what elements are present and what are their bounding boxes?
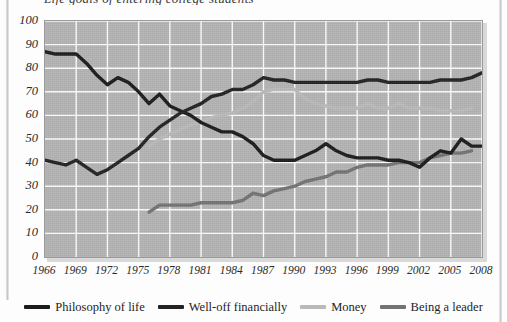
legend-label: Well-off financially xyxy=(189,300,287,315)
legend-swatch-icon xyxy=(300,305,326,309)
plot-area xyxy=(44,20,483,258)
x-axis-tick-1981: 1981 xyxy=(189,264,212,276)
legend-swatch-icon xyxy=(380,305,406,309)
x-axis-tick-1996: 1996 xyxy=(345,264,368,276)
x-axis-tick-1969: 1969 xyxy=(64,264,87,276)
legend-label: Money xyxy=(331,300,366,315)
y-axis-tick-100: 100 xyxy=(19,13,38,28)
x-axis-tick-2002: 2002 xyxy=(407,264,430,276)
x-axis-tick-1987: 1987 xyxy=(251,264,274,276)
y-axis-tick-0: 0 xyxy=(32,249,38,264)
y-axis-tick-80: 80 xyxy=(26,60,39,75)
legend-item-0[interactable]: Philosophy of life xyxy=(24,300,145,315)
y-axis-tick-90: 90 xyxy=(26,36,39,51)
y-axis-tick-20: 20 xyxy=(26,201,39,216)
chart-svg xyxy=(45,21,482,257)
x-axis-tick-2008: 2008 xyxy=(470,264,493,276)
x-axis-tick-2005: 2005 xyxy=(438,264,461,276)
legend-label: Philosophy of life xyxy=(55,300,145,315)
y-axis-tick-50: 50 xyxy=(26,131,39,146)
x-axis-tick-1978: 1978 xyxy=(157,264,180,276)
x-axis-labels: 1966196919721975197819811984198719901993… xyxy=(0,264,507,282)
y-axis-tick-70: 70 xyxy=(26,83,39,98)
chart-legend: Philosophy of lifeWell-off financiallyMo… xyxy=(0,296,507,318)
y-axis-tick-10: 10 xyxy=(26,225,39,240)
legend-item-2[interactable]: Money xyxy=(300,300,366,315)
x-axis-tick-1975: 1975 xyxy=(126,264,149,276)
y-axis-labels: 0102030405060708090100 xyxy=(0,0,44,280)
x-axis-tick-1993: 1993 xyxy=(313,264,336,276)
x-axis-tick-1972: 1972 xyxy=(95,264,118,276)
x-axis-tick-1999: 1999 xyxy=(376,264,399,276)
chart-title: Life goals of entering college students xyxy=(44,0,444,5)
legend-swatch-icon xyxy=(24,305,50,309)
y-axis-tick-40: 40 xyxy=(26,154,39,169)
legend-swatch-icon xyxy=(158,305,184,309)
legend-label: Being a leader xyxy=(411,300,483,315)
legend-item-3[interactable]: Being a leader xyxy=(380,300,483,315)
chart-page: Life goals of entering college students … xyxy=(0,0,507,322)
y-axis-tick-60: 60 xyxy=(26,107,39,122)
x-axis-tick-1966: 1966 xyxy=(33,264,56,276)
x-axis-tick-1990: 1990 xyxy=(282,264,305,276)
x-axis-tick-1984: 1984 xyxy=(220,264,243,276)
y-axis-tick-30: 30 xyxy=(26,178,39,193)
legend-item-1[interactable]: Well-off financially xyxy=(158,300,287,315)
